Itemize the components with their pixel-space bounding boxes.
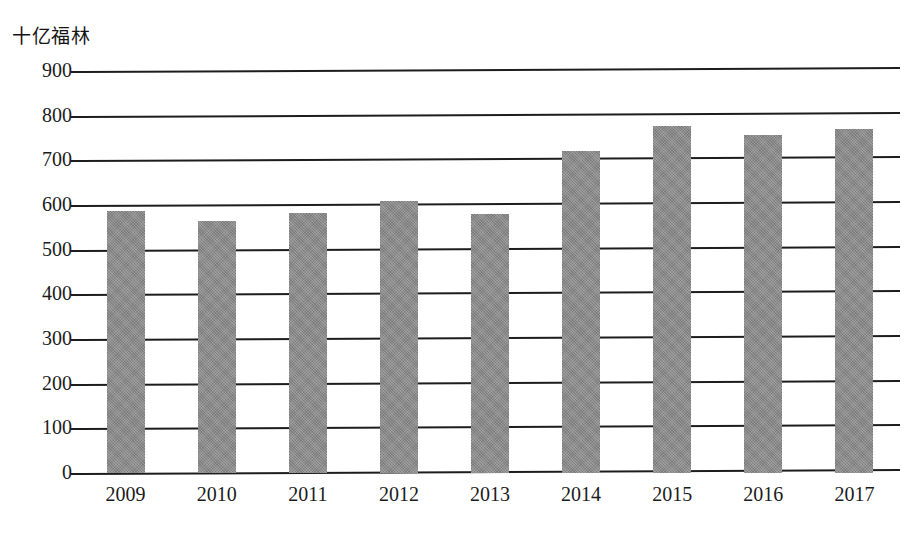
chart-unit-label: 十亿福林	[12, 26, 90, 48]
bar-slot-2010	[171, 71, 262, 473]
bar-chart-figure: 十亿福林 9008007006005004003002001000 200920…	[0, 0, 924, 545]
x-tick-label-2013: 2013	[444, 482, 535, 506]
x-tick-label-2016: 2016	[718, 482, 809, 506]
bar-2014[interactable]	[562, 151, 600, 473]
bar-slot-2009	[80, 71, 171, 473]
plot-area: 9008007006005004003002001000	[80, 71, 900, 473]
y-tick-label-600: 600	[0, 194, 72, 214]
y-tick-label-200: 200	[0, 373, 72, 393]
bars-group	[80, 71, 900, 473]
x-tick-label-2009: 2009	[80, 482, 171, 506]
y-tick-label-800: 800	[0, 105, 72, 125]
bar-2012[interactable]	[380, 201, 418, 473]
bar-2009[interactable]	[107, 211, 145, 473]
bar-slot-2011	[262, 71, 353, 473]
x-axis-tick-labels: 200920102011201220132014201520162017	[80, 482, 900, 514]
bar-slot-2016	[718, 71, 809, 473]
bar-slot-2013	[444, 71, 535, 473]
y-tick-label-100: 100	[0, 417, 72, 437]
y-tick-dash-0	[71, 473, 82, 475]
bar-2011[interactable]	[289, 213, 327, 473]
bar-2013[interactable]	[471, 214, 509, 474]
x-tick-label-2014: 2014	[536, 482, 627, 506]
x-tick-label-2011: 2011	[262, 482, 353, 506]
bar-2010[interactable]	[198, 221, 236, 473]
x-tick-label-2010: 2010	[171, 482, 262, 506]
y-tick-label-400: 400	[0, 283, 72, 303]
bar-slot-2015	[627, 71, 718, 473]
x-tick-label-2012: 2012	[353, 482, 444, 506]
y-tick-label-700: 700	[0, 149, 72, 169]
x-tick-label-2015: 2015	[627, 482, 718, 506]
bar-slot-2014	[536, 71, 627, 473]
y-tick-label-0: 0	[0, 462, 72, 482]
x-tick-label-2017: 2017	[809, 482, 900, 506]
bar-slot-2017	[809, 71, 900, 473]
y-tick-label-300: 300	[0, 328, 72, 348]
y-tick-label-500: 500	[0, 239, 72, 259]
bar-2016[interactable]	[744, 135, 782, 473]
bar-slot-2012	[353, 71, 444, 473]
bar-2015[interactable]	[653, 126, 691, 474]
bar-2017[interactable]	[835, 129, 873, 473]
y-tick-label-900: 900	[0, 60, 72, 80]
